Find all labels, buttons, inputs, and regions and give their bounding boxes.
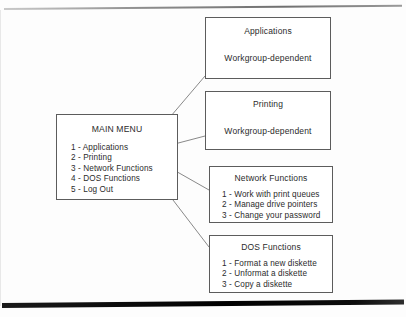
network-functions-box: Network Functions 1 - Work with print qu… (209, 166, 333, 223)
dos-functions-item-unformat-diskette[interactable]: 2 - Unformat a diskette (222, 269, 332, 279)
dos-functions-item-format-diskette[interactable]: 1 - Format a new diskette (222, 259, 332, 269)
network-functions-item-change-password[interactable]: 3 - Change your password (222, 211, 332, 221)
main-menu-item-network-functions[interactable]: 3 - Network Functions (71, 164, 177, 174)
main-menu-box: MAIN MENU 1 - Applications 2 - Printing … (56, 114, 178, 200)
dos-functions-item-list: 1 - Format a new diskette 2 - Unformat a… (222, 259, 332, 290)
diagram-page: MAIN MENU 1 - Applications 2 - Printing … (0, 0, 406, 317)
dos-functions-title: DOS Functions (210, 242, 332, 252)
applications-subtitle: Workgroup-dependent (206, 53, 330, 63)
network-functions-item-print-queues[interactable]: 1 - Work with print queues (222, 190, 332, 200)
main-menu-title: MAIN MENU (57, 124, 177, 134)
printing-title: Printing (206, 99, 330, 109)
network-functions-title: Network Functions (210, 173, 332, 183)
dos-functions-item-copy-diskette[interactable]: 3 - Copy a diskette (222, 280, 332, 290)
main-menu-item-applications[interactable]: 1 - Applications (71, 143, 177, 153)
main-menu-item-list: 1 - Applications 2 - Printing 3 - Networ… (71, 143, 177, 195)
dos-functions-box: DOS Functions 1 - Format a new diskette … (209, 235, 333, 293)
printing-subtitle: Workgroup-dependent (206, 126, 330, 136)
main-menu-item-printing[interactable]: 2 - Printing (71, 153, 177, 163)
main-menu-item-dos-functions[interactable]: 4 - DOS Functions (71, 174, 177, 184)
page-bottom-bar (2, 299, 404, 308)
network-functions-item-drive-pointers[interactable]: 2 - Manage drive pointers (222, 200, 332, 210)
network-functions-item-list: 1 - Work with print queues 2 - Manage dr… (222, 190, 332, 221)
applications-box: Applications Workgroup-dependent (205, 17, 331, 79)
main-menu-item-log-out[interactable]: 5 - Log Out (71, 185, 177, 195)
printing-box: Printing Workgroup-dependent (205, 91, 331, 150)
applications-title: Applications (206, 26, 330, 36)
page-top-rule (4, 5, 402, 10)
page-left-edge (0, 10, 1, 306)
